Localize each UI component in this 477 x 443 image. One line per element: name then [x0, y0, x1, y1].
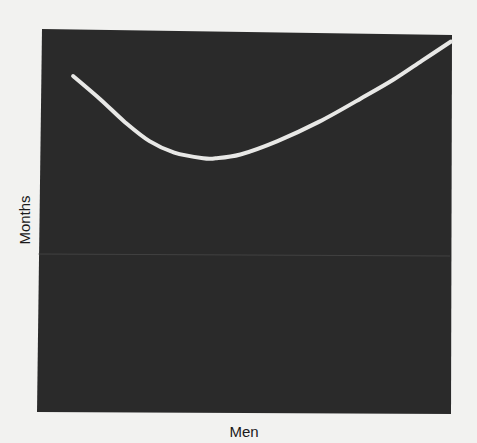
plot-background [37, 29, 452, 414]
y-axis-label: Months [16, 195, 33, 244]
chart-area [0, 0, 477, 443]
x-axis-label: Men [229, 423, 258, 440]
